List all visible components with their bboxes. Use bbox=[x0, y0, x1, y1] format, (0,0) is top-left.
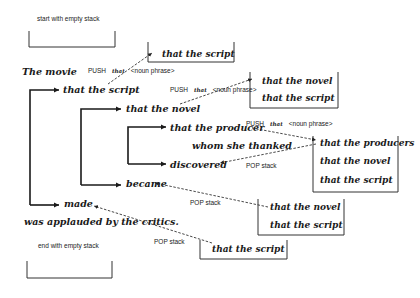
word-rel3-clause: whom she thanked bbox=[192, 140, 292, 151]
push-arrow-3 bbox=[252, 128, 316, 140]
stack-2-item-top: that the novel bbox=[262, 76, 333, 86]
empty-stack-end bbox=[27, 261, 112, 278]
stack-5-item: that the script bbox=[212, 244, 285, 254]
empty-stack-start bbox=[29, 31, 115, 47]
pop-label-3: POP stack bbox=[154, 238, 185, 245]
word-verb1: made bbox=[64, 198, 93, 209]
stack-4-item: that the script bbox=[270, 220, 343, 230]
stack-parsing-diagram: start with empty stack The movie that th… bbox=[0, 0, 420, 298]
stack-2-item: that the script bbox=[262, 93, 335, 103]
bracket-arrow-rel3 bbox=[128, 127, 166, 164]
stack-1-item: that the script bbox=[162, 49, 235, 59]
word-rel1: that the script bbox=[63, 84, 140, 95]
bracket-arrow-rel1 bbox=[30, 90, 59, 205]
pop-label-1: POP stack bbox=[246, 162, 277, 169]
word-rel2: that the novel bbox=[126, 103, 201, 114]
word-verb3: discovered bbox=[170, 159, 227, 170]
stack-3-item: that the novel bbox=[320, 156, 391, 166]
push-label-2: PUSH that <noun phrase> bbox=[170, 78, 257, 95]
push-label-3: PUSH that <noun phrase> bbox=[246, 112, 333, 129]
stack-4-item-top: that the novel bbox=[270, 202, 341, 212]
word-subject: The movie bbox=[22, 66, 77, 77]
word-verb2: became bbox=[126, 178, 167, 189]
pop-label-2: POP stack bbox=[190, 199, 221, 206]
bracket-arrow-rel2 bbox=[81, 109, 121, 185]
stack-3-item-top: that the producers bbox=[320, 138, 414, 148]
stack-3-item: that the script bbox=[320, 175, 393, 185]
end-caption: end with empty stack bbox=[38, 242, 99, 250]
start-caption: start with empty stack bbox=[37, 15, 100, 23]
